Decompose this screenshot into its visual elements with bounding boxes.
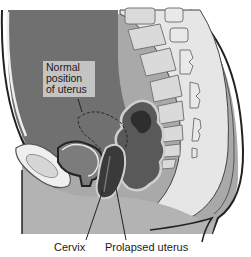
anatomy-illustration	[0, 0, 251, 257]
uterine-prolapse-diagram: Normal position of uterus Cervix Prolaps…	[0, 0, 251, 257]
cervix-label: Cervix	[54, 241, 85, 253]
prolapsed-uterus-label: Prolapsed uterus	[105, 241, 188, 253]
callout-line-3: of uterus	[46, 84, 93, 95]
normal-position-callout: Normal position of uterus	[43, 61, 95, 97]
